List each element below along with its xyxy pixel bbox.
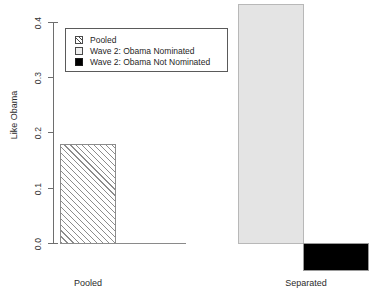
y-axis-top-cap bbox=[53, 22, 58, 23]
legend-label: Wave 2: Obama Nominated bbox=[90, 47, 195, 56]
legend-item-obama-not-nominated: Wave 2: Obama Not Nominated bbox=[75, 56, 210, 68]
y-tick-label-text: 0.1 bbox=[33, 183, 43, 195]
bar-separated-obama-not-nominated bbox=[303, 243, 369, 271]
y-tick-label-0.0: 0.0 bbox=[0, 239, 44, 249]
bar-pooled-pooled bbox=[60, 144, 116, 244]
black-square-icon bbox=[75, 58, 83, 66]
light-gray-square-icon bbox=[75, 47, 83, 55]
category-label-separated: Separated bbox=[273, 278, 339, 288]
legend: Pooled Wave 2: Obama Nominated Wave 2: O… bbox=[65, 28, 228, 72]
y-tick-0.3 bbox=[48, 77, 53, 78]
y-axis-bottom-cap bbox=[53, 243, 58, 244]
y-tick-label-text: 0.3 bbox=[33, 72, 43, 84]
y-tick-label-text: 0.2 bbox=[33, 127, 43, 139]
bar-chart: 0.4 0.3 0.2 0.1 0.0 Like Obama Pooled Se… bbox=[0, 0, 374, 305]
legend-label: Wave 2: Obama Not Nominated bbox=[90, 58, 210, 67]
y-tick-0.0 bbox=[48, 243, 53, 244]
y-tick-label-text: 0.0 bbox=[33, 238, 43, 250]
y-tick-label-text: 0.4 bbox=[33, 17, 43, 29]
y-tick-label-0.1: 0.1 bbox=[0, 184, 44, 194]
y-tick-0.1 bbox=[48, 188, 53, 189]
legend-label: Pooled bbox=[90, 36, 116, 45]
y-tick-label-0.2: 0.2 bbox=[0, 128, 44, 138]
category-label-pooled: Pooled bbox=[58, 278, 118, 288]
y-tick-label-0.3: 0.3 bbox=[0, 73, 44, 83]
hatched-square-icon bbox=[75, 36, 83, 44]
y-tick-0.4 bbox=[48, 22, 53, 23]
y-tick-0.2 bbox=[48, 132, 53, 133]
y-axis-title: Like Obama bbox=[9, 75, 19, 155]
y-tick-label-0.4: 0.4 bbox=[0, 18, 44, 28]
bar-separated-obama-nominated bbox=[238, 4, 304, 244]
y-axis-line bbox=[53, 22, 54, 243]
